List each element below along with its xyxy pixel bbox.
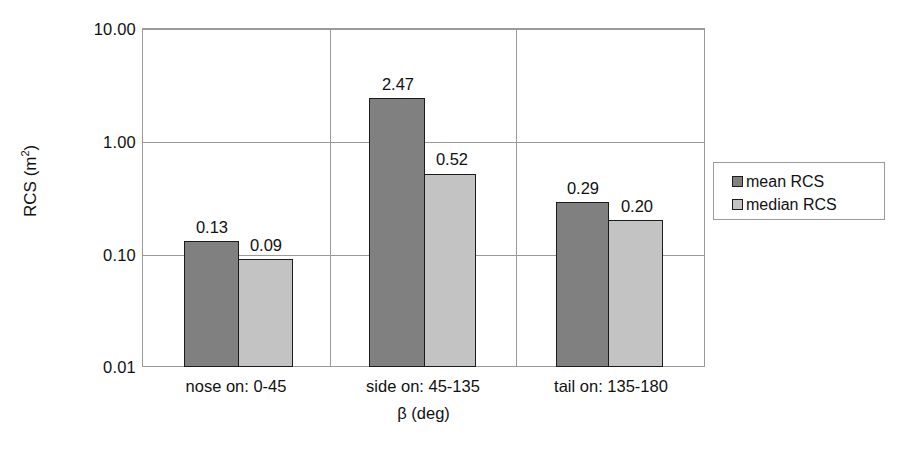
y-tick-1: 1.00 bbox=[44, 134, 136, 150]
bar-mean-nose-on[interactable] bbox=[184, 241, 239, 367]
x-tick-tail-on: tail on: 135-180 bbox=[516, 377, 706, 395]
x-axis-title: β (deg) bbox=[142, 404, 705, 423]
category-separator-1 bbox=[330, 29, 331, 366]
y-axis-title-main: RCS (m bbox=[21, 157, 40, 217]
x-tick-side-on: side on: 45-135 bbox=[330, 377, 516, 395]
y-axis-title-exponent: 2 bbox=[19, 150, 31, 156]
bar-mean-tail-on[interactable] bbox=[556, 202, 609, 367]
legend-item-mean-rcs[interactable]: mean RCS bbox=[732, 170, 884, 193]
bar-value-label-mean-side-on: 2.47 bbox=[363, 76, 433, 93]
bar-value-label-mean-nose-on: 0.13 bbox=[177, 219, 247, 236]
legend-label-mean-rcs: mean RCS bbox=[746, 173, 824, 191]
y-axis-title-end: ) bbox=[21, 145, 40, 151]
y-tick-0.01: 0.01 bbox=[44, 359, 136, 375]
legend-item-median-rcs[interactable]: median RCS bbox=[732, 193, 884, 216]
legend-swatch-mean-rcs bbox=[732, 176, 743, 187]
y-tick-10: 10.00 bbox=[44, 21, 136, 37]
gridline-10 bbox=[143, 29, 704, 30]
plot-area: 0.13 0.09 2.47 0.52 0.29 0.20 bbox=[142, 28, 705, 367]
bar-value-label-median-side-on: 0.52 bbox=[421, 151, 483, 168]
bar-value-label-median-nose-on: 0.09 bbox=[233, 237, 299, 254]
y-axis-title: RCS (m2) bbox=[19, 91, 41, 271]
legend-label-median-rcs: median RCS bbox=[746, 196, 837, 214]
bar-value-label-mean-tail-on: 0.29 bbox=[550, 180, 616, 197]
bar-median-nose-on[interactable] bbox=[238, 259, 293, 367]
bar-mean-side-on[interactable] bbox=[369, 98, 425, 367]
legend: mean RCS median RCS bbox=[713, 162, 885, 220]
y-tick-0.10: 0.10 bbox=[44, 247, 136, 263]
bar-value-label-median-tail-on: 0.20 bbox=[605, 198, 669, 215]
bar-median-tail-on[interactable] bbox=[608, 220, 663, 367]
y-axis-tick-labels: 10.00 1.00 0.10 0.01 bbox=[36, 0, 136, 450]
x-tick-nose-on: nose on: 0-45 bbox=[142, 377, 330, 395]
category-separator-2 bbox=[516, 29, 517, 366]
bar-median-side-on[interactable] bbox=[424, 174, 476, 367]
rcs-bar-chart-figure: 10.00 1.00 0.10 0.01 RCS (m2) 0.13 0.0 bbox=[0, 0, 899, 450]
legend-swatch-median-rcs bbox=[732, 199, 743, 210]
